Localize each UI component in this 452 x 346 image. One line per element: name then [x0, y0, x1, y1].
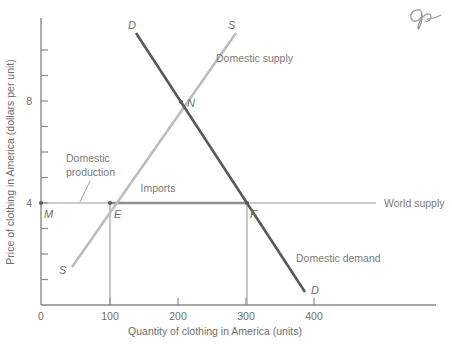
- x-tick-label-400: 400: [305, 310, 323, 322]
- annotation-imports: Imports: [140, 182, 175, 194]
- economics-supply-demand-figure: 8 4 0 100 200 300 400 Price of clothing …: [0, 0, 452, 346]
- y-axis-ticks: [41, 50, 48, 280]
- leader-line-domestic-production: [80, 181, 90, 202]
- y-tick-label-8: 8: [26, 95, 32, 107]
- chart-canvas: 8 4 0 100 200 300 400 Price of clothing …: [0, 0, 452, 346]
- x-tick-label-300: 300: [237, 310, 255, 322]
- curve-label-supply-top: S: [228, 19, 236, 31]
- origin-label: 0: [38, 310, 44, 322]
- curve-label-supply-bottom: S: [59, 264, 67, 276]
- x-tick-label-200: 200: [169, 310, 187, 322]
- annotation-world-supply: World supply: [384, 197, 445, 209]
- point-marker-e: [108, 201, 112, 205]
- x-axis-ticks: [110, 298, 314, 305]
- domestic-demand-curve: [136, 33, 305, 292]
- annotation-domestic-demand: Domestic demand: [296, 252, 381, 264]
- annotation-domestic-supply: Domestic supply: [216, 52, 294, 64]
- y-axis-title: Price of clothing in America (dollars pe…: [4, 59, 16, 264]
- annotation-domestic-production-line2: production: [66, 166, 115, 178]
- curve-label-demand-top: D: [128, 19, 136, 31]
- point-label-e: E: [114, 208, 122, 220]
- point-label-n: N: [187, 97, 195, 109]
- y-tick-label-4: 4: [26, 197, 32, 209]
- point-marker-m: [39, 201, 43, 205]
- point-label-m: M: [44, 208, 54, 220]
- curve-label-demand-bottom: D: [311, 284, 319, 296]
- x-tick-label-100: 100: [101, 310, 119, 322]
- point-marker-f: [245, 201, 249, 205]
- point-marker-n: [179, 100, 183, 104]
- handwritten-mark: [411, 10, 441, 29]
- annotation-domestic-production-line1: Domestic: [66, 152, 110, 164]
- x-axis-title: Quantity of clothing in America (units): [128, 325, 302, 337]
